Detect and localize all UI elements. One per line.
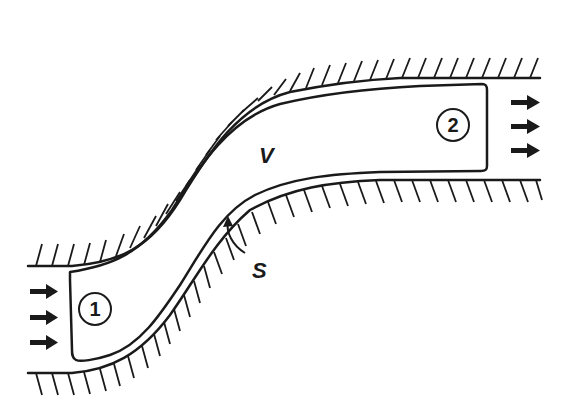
inlet-section-label: 1 [78, 292, 112, 326]
lower-wall [28, 180, 540, 373]
control-surface [70, 84, 487, 361]
outlet-section-label: 2 [436, 108, 470, 142]
upper-hatch [36, 58, 538, 266]
volume-label: V [259, 143, 274, 169]
surface-label: S [252, 258, 267, 284]
outlet-arrows [511, 95, 540, 158]
inlet-arrows [30, 284, 58, 350]
duct-drawing [0, 0, 564, 408]
control-volume-diagram: 1 2 V S [0, 0, 564, 408]
